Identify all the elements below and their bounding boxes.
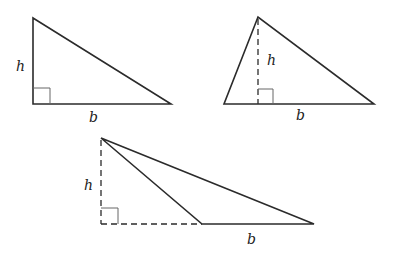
height-label: h bbox=[84, 177, 93, 193]
triangle-diagram: h b h b h b bbox=[0, 0, 393, 256]
height-label: h bbox=[267, 52, 276, 68]
height-label: h bbox=[16, 58, 25, 74]
acute-triangle-outline bbox=[224, 17, 374, 104]
obtuse-triangle-outline bbox=[101, 138, 314, 224]
obtuse-triangle: h b bbox=[84, 138, 314, 247]
base-label: b bbox=[89, 109, 98, 125]
right-angle-marker bbox=[101, 208, 118, 224]
acute-triangle: h b bbox=[224, 17, 374, 123]
right-angle-marker bbox=[258, 89, 273, 104]
base-label: b bbox=[247, 231, 256, 247]
right-triangle-outline bbox=[33, 18, 171, 104]
right-triangle: h b bbox=[16, 18, 171, 125]
right-angle-marker bbox=[33, 88, 50, 104]
base-label: b bbox=[296, 107, 305, 123]
